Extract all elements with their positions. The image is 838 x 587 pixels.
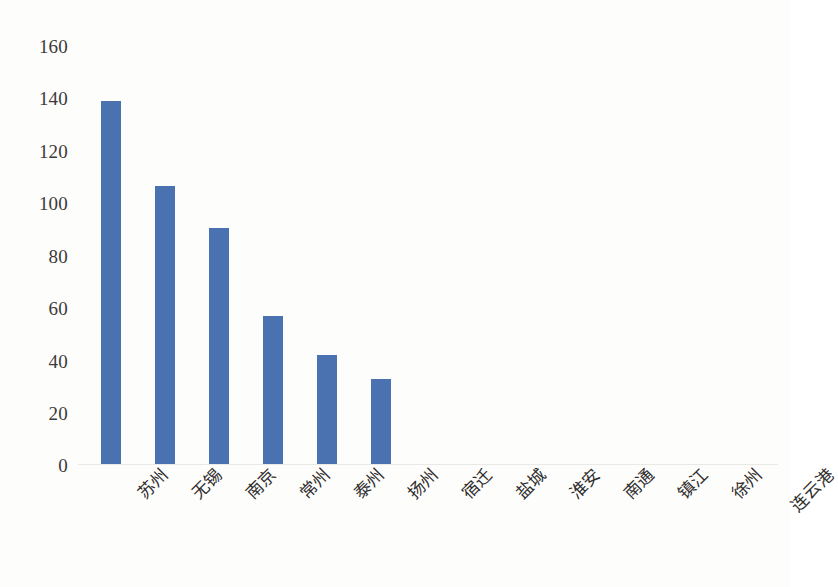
bar-5 xyxy=(371,379,391,464)
plot-area xyxy=(78,40,778,465)
bar-0 xyxy=(101,101,121,464)
x-axis-category-label-1: 无锡 xyxy=(188,465,225,502)
bar-3 xyxy=(263,316,283,464)
bar-2 xyxy=(209,228,229,464)
y-axis-tick-label: 100 xyxy=(39,194,68,213)
x-axis-category-label-9: 南通 xyxy=(620,465,657,502)
bar-4 xyxy=(317,355,337,464)
y-axis-tick-label: 0 xyxy=(58,456,68,475)
x-axis-category-label-4: 泰州 xyxy=(350,465,387,502)
y-axis: 160 140 120 100 80 60 40 20 0 xyxy=(0,0,78,587)
x-axis-category-label-2: 南京 xyxy=(242,465,279,502)
x-axis: 苏州 无锡 南京 常州 泰州 扬州 宿迁 盐城 淮安 南通 镇江 徐州 连云港 xyxy=(78,465,778,587)
x-axis-category-label-3: 常州 xyxy=(296,465,333,502)
y-axis-tick-label: 160 xyxy=(39,37,68,56)
y-axis-tick-label: 80 xyxy=(49,247,68,266)
y-axis-tick-label: 120 xyxy=(39,142,68,161)
bar-1 xyxy=(155,186,175,464)
x-axis-category-label-11: 徐州 xyxy=(728,465,765,502)
y-axis-tick-label: 60 xyxy=(49,299,68,318)
x-axis-category-label-7: 盐城 xyxy=(512,465,549,502)
x-axis-category-label-6: 宿迁 xyxy=(458,465,495,502)
y-axis-tick-label: 20 xyxy=(49,404,68,423)
x-axis-category-label-0: 苏州 xyxy=(134,465,171,502)
x-axis-category-label-12: 连云港 xyxy=(787,465,837,515)
y-axis-tick-label: 40 xyxy=(49,352,68,371)
x-axis-category-label-10: 镇江 xyxy=(674,465,711,502)
x-axis-category-label-8: 淮安 xyxy=(566,465,603,502)
y-axis-tick-label: 140 xyxy=(39,89,68,108)
x-axis-category-label-5: 扬州 xyxy=(404,465,441,502)
